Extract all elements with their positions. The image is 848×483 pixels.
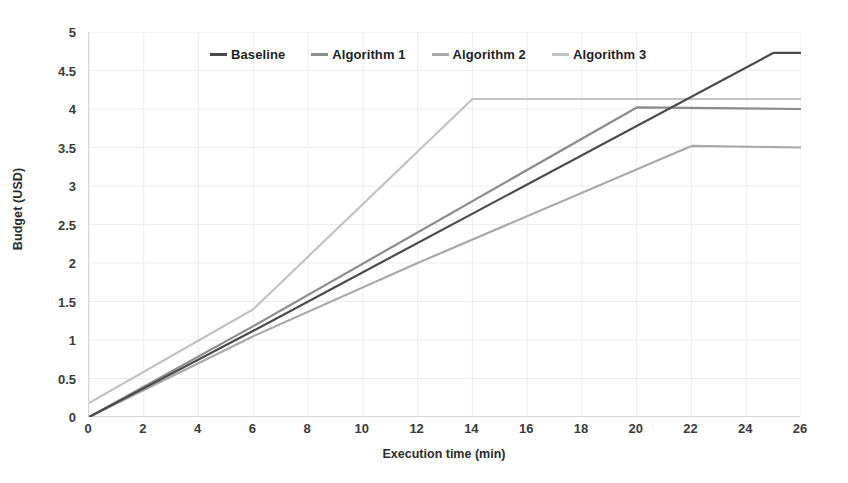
x-tick-label: 22 (683, 421, 697, 436)
plot-svg (89, 32, 801, 417)
legend-swatch-icon (210, 53, 227, 56)
x-tick-label: 8 (303, 421, 310, 436)
x-axis-title: Execution time (min) (88, 447, 800, 461)
y-axis-tick-labels: 00.511.522.533.544.55 (32, 32, 82, 417)
x-tick-label: 2 (139, 421, 146, 436)
y-axis-title: Budget (USD) (4, 0, 32, 417)
series-line-algorithm-1 (89, 107, 801, 417)
legend-item-label: Algorithm 1 (332, 47, 405, 62)
y-tick-label: 2.5 (58, 217, 76, 232)
legend-item-label: Algorithm 2 (453, 47, 526, 62)
grid-layer (89, 32, 801, 417)
budget-vs-execution-time-chart: Budget (USD) 00.511.522.533.544.55 Basel… (0, 0, 848, 483)
y-tick-label: 3 (69, 179, 76, 194)
legend-item-label: Baseline (231, 47, 285, 62)
x-tick-label: 0 (84, 421, 91, 436)
x-tick-label: 18 (574, 421, 588, 436)
legend-item-algorithm-1[interactable]: Algorithm 1 (311, 47, 405, 62)
x-tick-label: 12 (409, 421, 423, 436)
y-tick-label: 2 (69, 256, 76, 271)
y-tick-label: 5 (69, 25, 76, 40)
legend-item-algorithm-2[interactable]: Algorithm 2 (432, 47, 526, 62)
x-tick-label: 4 (194, 421, 201, 436)
x-tick-label: 10 (355, 421, 369, 436)
x-tick-label: 16 (519, 421, 533, 436)
legend-item-label: Algorithm 3 (573, 47, 646, 62)
series-line-algorithm-2 (89, 146, 801, 417)
y-tick-label: 4 (69, 102, 76, 117)
legend-swatch-icon (552, 53, 569, 56)
x-tick-label: 20 (628, 421, 642, 436)
y-tick-label: 1 (69, 333, 76, 348)
x-tick-label: 6 (249, 421, 256, 436)
y-tick-label: 1.5 (58, 294, 76, 309)
y-tick-label: 0 (69, 410, 76, 425)
plot-area (88, 32, 800, 417)
legend-item-baseline[interactable]: Baseline (210, 47, 285, 62)
x-tick-label: 24 (738, 421, 752, 436)
x-tick-label: 26 (793, 421, 807, 436)
y-tick-label: 4.5 (58, 63, 76, 78)
y-tick-label: 3.5 (58, 140, 76, 155)
legend-swatch-icon (311, 53, 328, 56)
series-layer (89, 53, 801, 417)
legend-swatch-icon (432, 53, 449, 56)
x-axis-tick-labels: 02468101214161820222426 (88, 421, 800, 443)
legend-item-algorithm-3[interactable]: Algorithm 3 (552, 47, 646, 62)
x-tick-label: 14 (464, 421, 478, 436)
chart-legend: BaselineAlgorithm 1Algorithm 2Algorithm … (210, 47, 646, 62)
y-tick-label: 0.5 (58, 371, 76, 386)
y-axis-title-label: Budget (USD) (11, 167, 25, 249)
